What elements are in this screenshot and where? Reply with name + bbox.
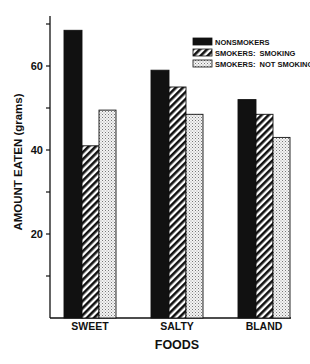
- legend-label: SMOKERS: NOT SMOKING: [215, 60, 310, 69]
- bar-sweet-dotted: [99, 110, 116, 318]
- y-tick-label: 60: [31, 60, 43, 72]
- legend-swatch-hatched: [193, 49, 212, 56]
- bars: [64, 30, 290, 318]
- legend-swatch-solid: [193, 38, 212, 45]
- y-tick-label: 20: [31, 228, 43, 240]
- bar-bland-solid: [238, 100, 256, 318]
- bar-bland-dotted: [273, 137, 290, 318]
- bar-salty-solid: [151, 70, 169, 318]
- bar-chart: 204060 SWEETSALTYBLANDFOODSAMOUNT EATEN …: [0, 0, 310, 364]
- legend: NONSMOKERSSMOKERS: SMOKINGSMOKERS: NOT S…: [193, 38, 310, 69]
- y-tick-label: 40: [31, 144, 43, 156]
- bar-bland-hatched: [256, 114, 273, 318]
- x-axis-title: FOODS: [155, 338, 199, 352]
- legend-label: NONSMOKERS: [215, 38, 270, 47]
- bar-salty-dotted: [186, 114, 203, 318]
- y-axis-title: AMOUNT EATEN (grams): [12, 93, 24, 230]
- x-tick-label: SALTY: [160, 320, 194, 332]
- bar-sweet-solid: [64, 30, 82, 318]
- legend-label: SMOKERS: SMOKING: [215, 49, 296, 58]
- x-tick-label: SWEET: [71, 320, 109, 332]
- bar-sweet-hatched: [82, 146, 99, 318]
- bar-salty-hatched: [169, 87, 186, 318]
- x-tick-label: BLAND: [246, 320, 283, 332]
- legend-swatch-dotted: [193, 60, 212, 67]
